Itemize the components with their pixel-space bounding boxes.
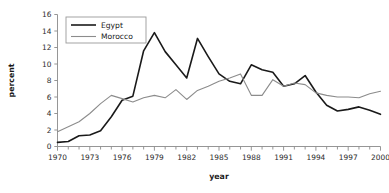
x-tick-label: 1982 [177,153,196,162]
y-tick-label: 4 [47,109,52,118]
y-axis-title: percent [7,63,16,97]
x-tick-label: 1994 [306,153,325,162]
legend-label-egypt: Egypt [101,21,123,30]
y-tick-label: 0 [47,142,52,151]
x-tick-label: 1979 [145,153,164,162]
x-tick-label: 1970 [48,153,67,162]
x-tick-label: 1985 [210,153,229,162]
x-tick-label: 1991 [274,153,293,162]
chart-legend: EgyptMorocco [66,17,146,43]
x-tick-label: 1997 [339,153,358,162]
y-tick-label: 14 [42,27,52,36]
x-axis-title: year [209,172,229,181]
y-tick-label: 2 [47,126,52,135]
x-tick-label: 1988 [242,153,261,162]
x-axis-ticks: 1970197319761979198219851988199119941997… [48,147,389,163]
y-tick-label: 12 [42,43,51,52]
y-tick-label: 10 [42,60,52,69]
y-axis-ticks: 0246810121416 [42,10,57,151]
legend-label-morocco: Morocco [101,32,133,41]
x-tick-label: 1973 [80,153,99,162]
y-tick-label: 6 [47,93,52,102]
data-series-group [58,33,381,143]
y-tick-label: 8 [47,76,52,85]
chart-container: 0246810121416 19701973197619791982198519… [0,0,389,193]
y-tick-label: 16 [42,10,52,19]
series-line-egypt [58,33,381,143]
x-tick-label: 1976 [113,153,132,162]
line-chart: 0246810121416 19701973197619791982198519… [0,0,389,193]
x-tick-label: 2000 [371,153,389,162]
